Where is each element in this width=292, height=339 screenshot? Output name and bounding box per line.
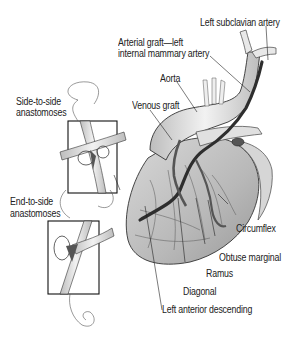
label-ramus: Ramus (206, 268, 233, 279)
label-end-to-side-1: End-to-side (10, 196, 53, 207)
label-arterial-graft-1: Arterial graft—left (118, 37, 183, 48)
label-circumflex: Circumflex (236, 223, 276, 234)
label-end-to-side-2: anastomoses (10, 208, 60, 219)
label-venous-graft: Venous graft (132, 100, 179, 111)
label-left-anterior-descending: Left anterior descending (162, 304, 252, 315)
label-arterial-graft-2: internal mammary artery (118, 48, 209, 59)
label-side-to-side-2: anastomoses (16, 107, 66, 118)
label-aorta: Aorta (160, 73, 180, 84)
heart (126, 137, 272, 264)
label-obtuse-marginal: Obtuse marginal (219, 252, 281, 263)
label-side-to-side-1: Side-to-side (16, 96, 61, 107)
label-diagonal: Diagonal (183, 286, 216, 297)
end-to-side-inset (48, 221, 114, 294)
side-to-side-inset (60, 121, 126, 193)
label-left-subclavian: Left subclavian artery (200, 17, 280, 28)
